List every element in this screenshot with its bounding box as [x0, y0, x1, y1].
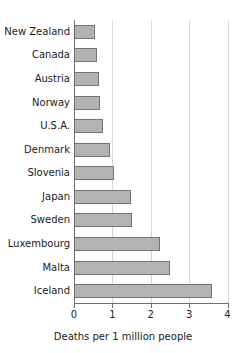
bar-row	[74, 72, 228, 86]
x-tick-label-1: 1	[102, 309, 122, 321]
bar-row	[74, 166, 228, 180]
x-tick-label-3: 3	[179, 309, 199, 321]
y-axis-label-denmark: Denmark	[0, 144, 70, 156]
bar-denmark	[74, 143, 110, 157]
bar-row	[74, 48, 228, 62]
y-axis-label-luxembourg: Luxembourg	[0, 238, 70, 250]
y-axis-line	[74, 20, 75, 303]
bar-row	[74, 119, 228, 133]
y-axis-label-canada: Canada	[0, 49, 70, 61]
y-axis-label-norway: Norway	[0, 97, 70, 109]
x-tick-mark	[228, 303, 229, 308]
bar-iceland	[74, 284, 212, 298]
x-tick-mark	[74, 303, 75, 308]
bar-row	[74, 25, 228, 39]
bar-luxembourg	[74, 237, 160, 251]
bar-new-zealand	[74, 25, 95, 39]
bar-row	[74, 237, 228, 251]
bar-row	[74, 190, 228, 204]
y-axis-label-austria: Austria	[0, 73, 70, 85]
bar-row	[74, 143, 228, 157]
y-axis-label-iceland: Iceland	[0, 285, 70, 297]
y-axis-label-u-s-a: U.S.A.	[0, 120, 70, 132]
x-axis-title: Deaths per 1 million people	[0, 330, 246, 343]
y-axis-label-new-zealand: New Zealand	[0, 26, 70, 38]
gridline	[228, 20, 229, 303]
bar-chart-figure: New ZealandCanadaAustriaNorwayU.S.A.Denm…	[0, 0, 246, 353]
y-axis-label-japan: Japan	[0, 191, 70, 203]
bar-norway	[74, 96, 100, 110]
bar-canada	[74, 48, 97, 62]
bar-japan	[74, 190, 131, 204]
x-tick-mark	[151, 303, 152, 308]
bar-slovenia	[74, 166, 114, 180]
y-axis-category-labels: New ZealandCanadaAustriaNorwayU.S.A.Denm…	[0, 0, 70, 353]
bar-row	[74, 261, 228, 275]
x-tick-label-4: 4	[218, 309, 238, 321]
bar-row	[74, 284, 228, 298]
y-axis-label-slovenia: Slovenia	[0, 167, 70, 179]
bar-sweden	[74, 213, 132, 227]
bar-row	[74, 96, 228, 110]
x-tick-label-2: 2	[141, 309, 161, 321]
y-axis-label-sweden: Sweden	[0, 214, 70, 226]
plot-area	[74, 20, 228, 303]
x-tick-label-0: 0	[64, 309, 84, 321]
x-tick-mark	[112, 303, 113, 308]
x-tick-mark	[189, 303, 190, 308]
bar-malta	[74, 261, 170, 275]
bar-row	[74, 213, 228, 227]
bar-u-s-a	[74, 119, 103, 133]
y-axis-label-malta: Malta	[0, 262, 70, 274]
bar-austria	[74, 72, 99, 86]
